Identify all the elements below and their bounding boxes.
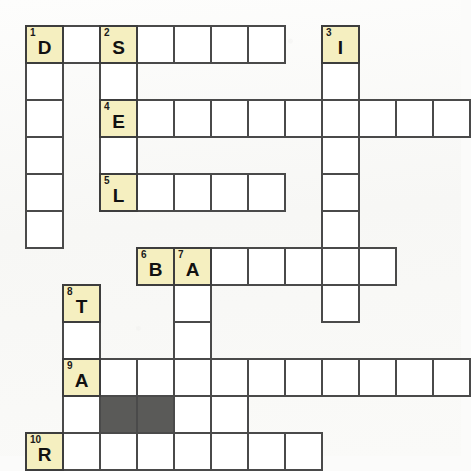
crossword-cell[interactable]: 10R [25, 432, 64, 471]
crossword-cell[interactable] [210, 173, 249, 212]
crossword-cell[interactable] [247, 25, 286, 64]
crossword-cell[interactable] [210, 395, 249, 434]
crossword-cell[interactable] [210, 99, 249, 138]
crossword-cell[interactable] [321, 136, 360, 175]
crossword-cell[interactable] [321, 247, 360, 286]
crossword-cell[interactable] [99, 136, 138, 175]
crossword-cell[interactable] [284, 247, 323, 286]
crossword-cell[interactable] [321, 62, 360, 101]
cell-number: 1 [30, 27, 36, 38]
crossword-cell[interactable] [173, 358, 212, 397]
crossword-cell[interactable] [62, 321, 101, 360]
crossword-cell[interactable] [136, 25, 175, 64]
crossword-cell[interactable]: 8T [62, 284, 101, 323]
cell-letter: T [76, 297, 88, 316]
crossword-cell[interactable] [173, 25, 212, 64]
cell-number: 9 [67, 360, 73, 371]
crossword-cell[interactable] [25, 210, 64, 249]
cell-letter: L [113, 186, 125, 205]
crossword-cell[interactable] [284, 432, 323, 471]
crossword-cell[interactable] [99, 358, 138, 397]
blocked-cell [99, 395, 138, 434]
crossword-cell[interactable] [284, 99, 323, 138]
cell-number: 6 [141, 249, 147, 260]
crossword-cell[interactable] [173, 173, 212, 212]
cell-letter: D [38, 38, 52, 57]
cell-number: 7 [178, 249, 184, 260]
crossword-cell[interactable] [210, 358, 249, 397]
cell-number: 8 [67, 286, 73, 297]
crossword-cell[interactable] [247, 247, 286, 286]
crossword-cell[interactable] [99, 432, 138, 471]
crossword-cell[interactable] [321, 358, 360, 397]
crossword-cell[interactable] [247, 173, 286, 212]
blocked-cell [136, 395, 175, 434]
crossword-cell[interactable] [136, 432, 175, 471]
crossword-cell[interactable] [247, 432, 286, 471]
crossword-cell[interactable] [136, 173, 175, 212]
crossword-cell[interactable] [62, 25, 101, 64]
cell-number: 2 [104, 27, 110, 38]
crossword-cell[interactable] [247, 99, 286, 138]
crossword-cell[interactable] [173, 284, 212, 323]
crossword-cell[interactable] [395, 358, 434, 397]
crossword-cell[interactable] [210, 25, 249, 64]
crossword-cell[interactable]: 3I [321, 25, 360, 64]
crossword-cell[interactable] [395, 99, 434, 138]
crossword-cell[interactable]: 6B [136, 247, 175, 286]
crossword-cell[interactable]: 5L [99, 173, 138, 212]
crossword-cell[interactable] [432, 358, 471, 397]
cell-number: 10 [30, 434, 41, 445]
crossword-cell[interactable] [247, 358, 286, 397]
crossword-cell[interactable]: 7A [173, 247, 212, 286]
crossword-cell[interactable] [25, 136, 64, 175]
cell-letter: E [112, 112, 125, 131]
crossword-cell[interactable] [358, 99, 397, 138]
crossword-cell[interactable] [321, 173, 360, 212]
crossword-cell[interactable] [358, 358, 397, 397]
crossword-cell[interactable] [210, 247, 249, 286]
cell-letter: I [338, 38, 343, 57]
crossword-cell[interactable] [99, 62, 138, 101]
crossword-cell[interactable]: 4E [99, 99, 138, 138]
crossword-cell[interactable] [173, 321, 212, 360]
cell-number: 3 [326, 27, 332, 38]
crossword-cell[interactable]: 9A [62, 358, 101, 397]
crossword-cell[interactable] [358, 247, 397, 286]
crossword-cell[interactable] [25, 99, 64, 138]
crossword-cell[interactable] [25, 62, 64, 101]
crossword-cell[interactable] [173, 99, 212, 138]
crossword-cell[interactable] [432, 99, 471, 138]
cell-letter: R [38, 445, 52, 464]
cell-number: 5 [104, 175, 110, 186]
crossword-cell[interactable] [25, 173, 64, 212]
crossword-cell[interactable] [173, 395, 212, 434]
crossword-cell[interactable] [62, 432, 101, 471]
cell-letter: A [186, 260, 200, 279]
crossword-cell[interactable] [136, 358, 175, 397]
crossword-cell[interactable]: 2S [99, 25, 138, 64]
crossword-cell[interactable] [62, 395, 101, 434]
crossword-cell[interactable] [136, 99, 175, 138]
crossword-cell[interactable] [321, 99, 360, 138]
crossword-cell[interactable] [210, 432, 249, 471]
crossword-cell[interactable] [321, 284, 360, 323]
cell-number: 4 [104, 101, 110, 112]
crossword-cell[interactable] [321, 210, 360, 249]
cell-letter: A [75, 371, 89, 390]
crossword-cell[interactable] [173, 432, 212, 471]
cell-letter: B [149, 260, 163, 279]
crossword-cell[interactable]: 1D [25, 25, 64, 64]
cell-letter: S [112, 38, 125, 57]
crossword-cell[interactable] [284, 358, 323, 397]
